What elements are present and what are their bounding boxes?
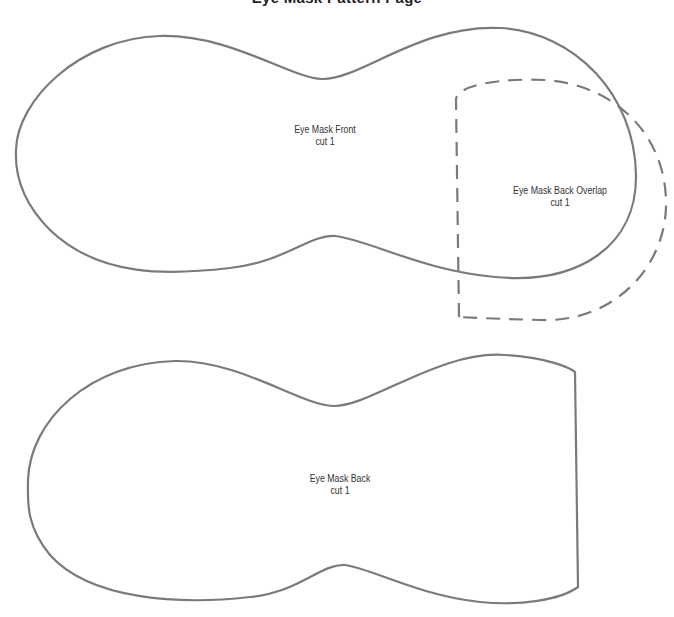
front-piece-name: Eye Mask Front bbox=[259, 124, 391, 136]
back-overlap-name: Eye Mask Back Overlap bbox=[494, 185, 626, 197]
back-piece-label: Eye Mask Back cut 1 bbox=[278, 473, 401, 497]
front-piece-label: Eye Mask Front cut 1 bbox=[259, 124, 391, 148]
back-overlap-label: Eye Mask Back Overlap cut 1 bbox=[494, 185, 626, 209]
pattern-drawing bbox=[0, 0, 674, 617]
front-piece-outline bbox=[16, 28, 636, 278]
back-piece-name: Eye Mask Back bbox=[278, 473, 401, 485]
back-piece-instruction: cut 1 bbox=[278, 485, 401, 497]
back-overlap-instruction: cut 1 bbox=[494, 197, 626, 209]
front-piece-instruction: cut 1 bbox=[259, 136, 391, 148]
